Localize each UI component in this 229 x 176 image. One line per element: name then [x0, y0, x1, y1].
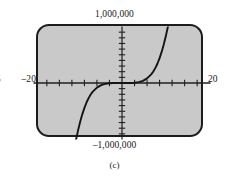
y-axis-min-label: –1,000,000	[0, 141, 229, 151]
clipped-edge-text: 5	[0, 74, 3, 86]
figure-container: 5 1,000,000 –1,000,000 –20 20 (c)	[0, 0, 229, 176]
y-axis-max-label: 1,000,000	[0, 10, 229, 20]
x-axis-min-label: –20	[10, 75, 36, 85]
plot-screen	[36, 24, 203, 137]
figure-caption: (c)	[0, 160, 229, 170]
plot-svg	[36, 24, 208, 142]
